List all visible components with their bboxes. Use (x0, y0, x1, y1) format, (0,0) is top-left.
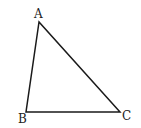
vertex-label-a: A (33, 7, 43, 21)
vertex-label-b: B (18, 112, 27, 126)
triangle-abc (26, 22, 120, 112)
triangle-diagram: A B C (0, 0, 141, 128)
vertex-label-c: C (122, 109, 131, 123)
